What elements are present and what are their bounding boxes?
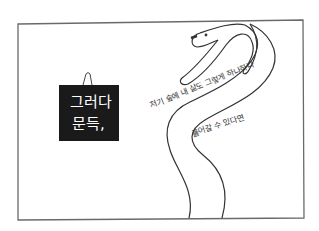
sign-text-line2: 문득,	[72, 116, 105, 133]
illustration-panel	[0, 0, 319, 231]
sign-text-line1: 그러다	[70, 94, 112, 111]
